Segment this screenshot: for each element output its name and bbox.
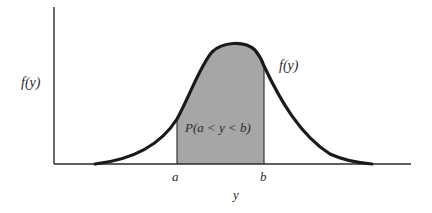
upper-bound-label: b (260, 169, 267, 185)
density-diagram (0, 0, 432, 213)
lower-bound-label: a (172, 169, 179, 185)
shaded-probability-region (177, 43, 264, 164)
curve-label: f(y) (279, 58, 298, 74)
x-axis-label: y (233, 187, 239, 203)
shaded-region-label: P(a < y < b) (185, 120, 251, 136)
y-axis-label: f(y) (21, 75, 40, 91)
